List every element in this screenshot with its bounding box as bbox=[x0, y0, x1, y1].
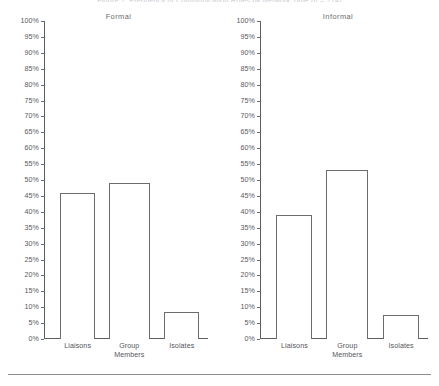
y-tick-label: 50% bbox=[241, 176, 256, 184]
category-labels-informal: LiaisonsGroupMembersIsolates bbox=[260, 342, 428, 368]
y-tick bbox=[41, 339, 44, 340]
y-tick-label: 95% bbox=[25, 33, 40, 41]
y-tick-label: 20% bbox=[241, 271, 256, 279]
y-tick-label: 20% bbox=[25, 271, 40, 279]
y-tick-label: 70% bbox=[241, 112, 256, 120]
bars-formal bbox=[44, 21, 208, 339]
y-tick-label: 30% bbox=[241, 240, 256, 248]
y-tick-label: 55% bbox=[241, 160, 256, 168]
y-tick-label: 90% bbox=[241, 49, 256, 57]
y-tick-label: 0% bbox=[245, 335, 255, 343]
bar bbox=[326, 170, 368, 339]
y-tick-label: 50% bbox=[25, 176, 40, 184]
y-tick-label: 80% bbox=[241, 81, 256, 89]
y-tick-label: 80% bbox=[25, 81, 40, 89]
footer-divider bbox=[8, 374, 431, 375]
chart-panels: Formal 100%95%90%85%80%75%70%65%60%55%50… bbox=[0, 11, 439, 351]
y-tick-label: 5% bbox=[29, 319, 39, 327]
y-tick-label: 85% bbox=[241, 65, 256, 73]
y-tick-label: 0% bbox=[29, 335, 39, 343]
panel-formal: Formal 100%95%90%85%80%75%70%65%60%55%50… bbox=[0, 11, 219, 351]
y-tick-label: 15% bbox=[241, 287, 256, 295]
bar bbox=[383, 315, 419, 339]
y-tick-label: 60% bbox=[241, 144, 256, 152]
bar bbox=[164, 312, 199, 339]
bar bbox=[276, 215, 312, 339]
y-tick-label: 75% bbox=[241, 97, 256, 105]
y-tick-label: 40% bbox=[25, 208, 40, 216]
y-tick bbox=[257, 339, 260, 340]
bar bbox=[60, 193, 95, 339]
panel-informal: Informal 100%95%90%85%80%75%70%65%60%55%… bbox=[219, 11, 439, 351]
y-tick-label: 5% bbox=[245, 319, 255, 327]
category-label: Isolates bbox=[146, 342, 218, 351]
plot-area-formal: 100%95%90%85%80%75%70%65%60%55%50%45%40%… bbox=[44, 21, 208, 339]
y-tick-label: 95% bbox=[241, 33, 256, 41]
y-tick-label: 15% bbox=[25, 287, 40, 295]
bars-informal bbox=[260, 21, 428, 339]
plot-area-informal: 100%95%90%85%80%75%70%65%60%55%50%45%40%… bbox=[260, 21, 428, 339]
y-tick-label: 30% bbox=[25, 240, 40, 248]
y-tick-label: 65% bbox=[25, 128, 40, 136]
y-tick-label: 75% bbox=[25, 97, 40, 105]
y-tick-label: 45% bbox=[241, 192, 256, 200]
bar bbox=[109, 183, 150, 339]
y-tick-label: 35% bbox=[25, 224, 40, 232]
y-tick-label: 60% bbox=[25, 144, 40, 152]
y-tick-label: 40% bbox=[241, 208, 256, 216]
y-tick-label: 45% bbox=[25, 192, 40, 200]
y-tick-label: 25% bbox=[25, 256, 40, 264]
y-tick-label: 10% bbox=[25, 303, 40, 311]
y-tick-label: 55% bbox=[25, 160, 40, 168]
y-tick-label: 35% bbox=[241, 224, 256, 232]
y-tick-label: 100% bbox=[20, 17, 39, 25]
y-tick-label: 100% bbox=[236, 17, 255, 25]
category-label: Isolates bbox=[364, 342, 438, 351]
y-tick-label: 65% bbox=[241, 128, 256, 136]
y-tick-label: 10% bbox=[241, 303, 256, 311]
y-tick-label: 85% bbox=[25, 65, 40, 73]
y-tick-label: 25% bbox=[241, 256, 256, 264]
y-tick-label: 70% bbox=[25, 112, 40, 120]
y-tick-label: 90% bbox=[25, 49, 40, 57]
figure-title-clipped: Figure 1. Frequency of Communication Rol… bbox=[0, 0, 439, 2]
category-labels-formal: LiaisonsGroupMembersIsolates bbox=[44, 342, 208, 368]
